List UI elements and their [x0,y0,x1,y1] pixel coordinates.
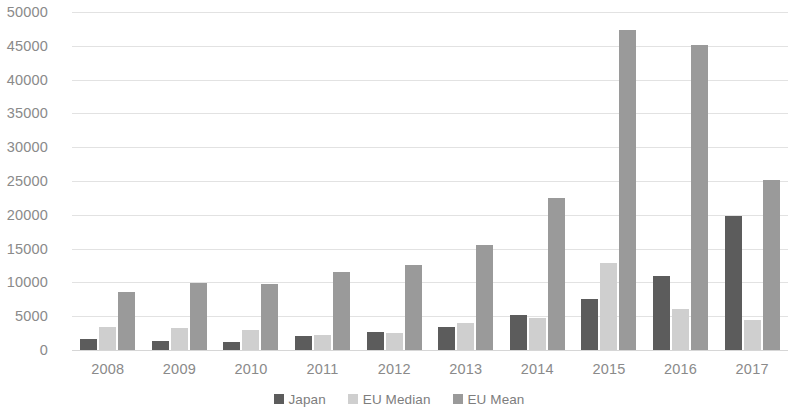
bar-eu-mean-2009[interactable] [190,283,207,350]
bar-group [287,12,359,350]
bar-eu-mean-2013[interactable] [476,245,493,350]
bar-group [716,12,788,350]
y-axis-tick-label: 40000 [0,72,48,88]
bar-japan-2016[interactable] [653,276,670,350]
bar-eu-median-2014[interactable] [529,318,546,350]
bar-chart: 0500010000150002000025000300003500040000… [0,0,798,413]
bar-group [72,12,144,350]
bar-japan-2013[interactable] [438,327,455,350]
bar-eu-median-2011[interactable] [314,335,331,350]
y-axis-tick-label: 25000 [0,173,48,189]
legend-swatch-icon [274,394,284,404]
legend-item-japan[interactable]: Japan [274,392,326,407]
y-axis-tick-label: 30000 [0,139,48,155]
legend-swatch-icon [453,394,463,404]
bar-eu-median-2016[interactable] [672,309,689,350]
y-axis-tick-label: 50000 [0,4,48,20]
bar-japan-2014[interactable] [510,315,527,350]
bar-eu-median-2017[interactable] [744,320,761,350]
x-axis-tick-label: 2015 [573,356,645,382]
bar-japan-2009[interactable] [152,341,169,350]
bar-eu-mean-2015[interactable] [619,30,636,350]
legend-label: Japan [289,392,326,407]
bar-group [645,12,717,350]
bar-group [358,12,430,350]
bar-group [573,12,645,350]
bar-japan-2017[interactable] [725,216,742,350]
bar-eu-median-2010[interactable] [242,330,259,350]
bar-eu-mean-2016[interactable] [691,45,708,350]
plot-area: 0500010000150002000025000300003500040000… [72,12,788,350]
y-axis-tick-label: 0 [0,342,48,358]
bar-eu-median-2008[interactable] [99,327,116,350]
y-axis-tick-label: 15000 [0,241,48,257]
y-axis-tick-label: 10000 [0,274,48,290]
bar-eu-mean-2010[interactable] [261,284,278,350]
x-axis-tick-label: 2017 [716,356,788,382]
bar-group [430,12,502,350]
x-axis-tick-label: 2010 [215,356,287,382]
legend-label: EU Mean [468,392,525,407]
y-axis-tick-label: 35000 [0,105,48,121]
bar-japan-2008[interactable] [80,339,97,350]
x-axis-tick-label: 2011 [287,356,359,382]
bar-eu-mean-2011[interactable] [333,272,350,350]
bar-group [144,12,216,350]
bar-eu-median-2012[interactable] [386,333,403,350]
axis-baseline [72,350,788,351]
bar-eu-mean-2008[interactable] [118,292,135,350]
bar-eu-mean-2017[interactable] [763,180,780,350]
bar-japan-2011[interactable] [295,336,312,350]
legend-item-eu-mean[interactable]: EU Mean [453,392,525,407]
x-axis-tick-label: 2009 [144,356,216,382]
legend-item-eu-median[interactable]: EU Median [348,392,431,407]
x-axis-tick-label: 2016 [645,356,717,382]
legend-swatch-icon [348,394,358,404]
chart-legend: JapanEU MedianEU Mean [0,388,798,410]
x-axis-tick-label: 2014 [502,356,574,382]
x-axis-tick-label: 2012 [358,356,430,382]
bar-group [502,12,574,350]
y-axis-tick-label: 20000 [0,207,48,223]
bar-eu-median-2015[interactable] [600,263,617,350]
y-axis-tick-label: 5000 [0,308,48,324]
x-axis-tick-label: 2013 [430,356,502,382]
bar-eu-mean-2014[interactable] [548,198,565,350]
x-axis-tick-label: 2008 [72,356,144,382]
bar-japan-2015[interactable] [581,299,598,350]
bar-group [215,12,287,350]
bar-eu-mean-2012[interactable] [405,265,422,350]
bar-eu-median-2013[interactable] [457,323,474,350]
bar-groups [72,12,788,350]
bar-japan-2010[interactable] [223,342,240,350]
x-axis-tick-labels: 2008200920102011201220132014201520162017 [72,356,788,382]
bar-eu-median-2009[interactable] [171,328,188,350]
legend-label: EU Median [363,392,431,407]
bar-japan-2012[interactable] [367,332,384,350]
y-axis-tick-label: 45000 [0,38,48,54]
